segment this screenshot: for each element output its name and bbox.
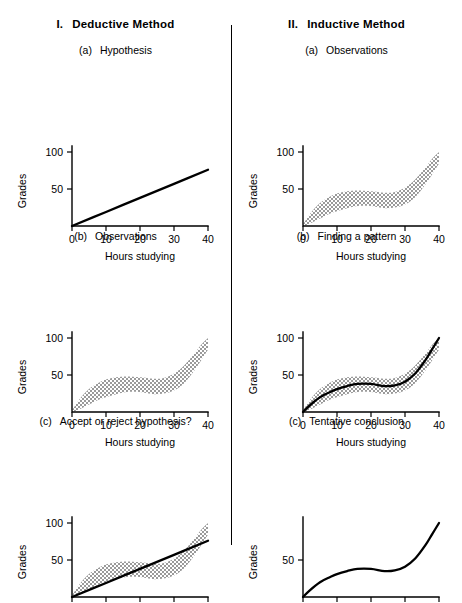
panel-title-text: Accept or reject hypothesis?: [60, 415, 192, 427]
y-tick-label: 50: [282, 554, 294, 566]
y-axis-title: Grades: [16, 174, 28, 208]
observations-band: [303, 152, 439, 226]
hypothesis-line: [72, 170, 208, 226]
column-header: I.Deductive Method: [0, 18, 231, 30]
panel-title: (a)Observations: [231, 44, 462, 56]
y-tick-label: 100: [45, 517, 63, 529]
y-axis-title: Grades: [247, 174, 259, 208]
axis-spines: [303, 517, 439, 597]
y-tick-label: 50: [51, 369, 63, 381]
observations-band: [72, 523, 208, 597]
y-tick-label: 50: [282, 183, 294, 195]
y-tick-label: 100: [276, 332, 294, 344]
observations-band: [303, 338, 439, 412]
panel-inductive-2: (b)Finding a pattern01020304050100Grades…: [231, 230, 462, 418]
column-deductive: I.Deductive Method(a)Hypothesis010203040…: [0, 0, 231, 566]
hypothesis-line: [72, 541, 208, 597]
column-inductive: II.Inductive Method(a)Observations010203…: [231, 0, 462, 566]
column-title: Deductive Method: [72, 18, 174, 30]
panel-tag: (b): [297, 230, 310, 242]
panel-title-text: Finding a pattern: [318, 230, 397, 242]
y-axis-title: Grades: [16, 360, 28, 394]
panel-deductive-3: (c)Accept or reject hypothesis?010203040…: [0, 415, 231, 603]
y-tick-label: 50: [282, 369, 294, 381]
panel-tag: (c): [39, 415, 51, 427]
y-axis-title: Grades: [16, 545, 28, 579]
panel-title: (c)Tentative conclusion: [231, 415, 462, 427]
panel-title-text: Observations: [95, 230, 157, 242]
y-axis-title: Grades: [247, 360, 259, 394]
column-numeral: II.: [288, 18, 298, 30]
plot-area: 01020304050100GradesHours studying: [0, 437, 231, 603]
plot-area: 01020304050100GradesHours studying: [231, 252, 462, 418]
panel-title: (a)Hypothesis: [0, 44, 231, 56]
panel-title-text: Hypothesis: [100, 44, 152, 56]
panel-title: (b)Observations: [0, 230, 231, 242]
plot-area: 01020304050100GradesHours studying: [0, 252, 231, 418]
y-tick-label: 50: [51, 183, 63, 195]
y-tick-label: 100: [276, 146, 294, 158]
plot-area: 01020304050GradesHours studying: [231, 437, 462, 603]
column-numeral: I.: [56, 18, 63, 30]
panel-deductive-2: (b)Observations01020304050100GradesHours…: [0, 230, 231, 418]
observations-band: [72, 338, 208, 412]
plot-area: 01020304050100GradesHours studying: [0, 66, 231, 232]
y-tick-label: 100: [45, 332, 63, 344]
column-title: Inductive Method: [307, 18, 405, 30]
panel-title-text: Tentative conclusion: [309, 415, 404, 427]
panel-inductive-1: (a)Observations01020304050100GradesHours…: [231, 44, 462, 232]
y-tick-label: 50: [51, 554, 63, 566]
y-axis-title: Grades: [247, 545, 259, 579]
axis-spines: [72, 146, 208, 226]
plot-area: 01020304050100GradesHours studying: [231, 66, 462, 232]
panel-inductive-3: (c)Tentative conclusion01020304050Grades…: [231, 415, 462, 603]
panel-title-text: Observations: [326, 44, 388, 56]
pattern-curve: [303, 523, 439, 597]
panel-deductive-1: (a)Hypothesis01020304050100GradesHours s…: [0, 44, 231, 232]
panel-tag: (c): [289, 415, 301, 427]
panel-title: (c)Accept or reject hypothesis?: [0, 415, 231, 427]
panel-tag: (a): [305, 44, 318, 56]
column-header: II.Inductive Method: [231, 18, 462, 30]
panel-tag: (b): [74, 230, 87, 242]
panel-tag: (a): [79, 44, 92, 56]
panel-title: (b)Finding a pattern: [231, 230, 462, 242]
y-tick-label: 100: [45, 146, 63, 158]
